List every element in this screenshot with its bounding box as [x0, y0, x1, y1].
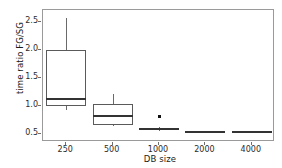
y-tick-label: 2.5 — [14, 17, 38, 25]
y-tick-label: 1.0 — [14, 101, 38, 109]
x-tick-label: 500 — [92, 145, 132, 154]
plot-area — [43, 10, 273, 140]
x-tick-mark — [204, 142, 205, 145]
y-tick-label: 0.5 — [14, 129, 38, 137]
y-tick-mark — [38, 77, 41, 78]
box-plot-group — [43, 10, 273, 140]
x-tick-mark — [251, 142, 252, 145]
x-axis-title: DB size — [45, 154, 275, 164]
x-tick-label: 1000 — [138, 145, 178, 154]
y-tick-mark — [38, 105, 41, 106]
x-tick-mark — [65, 142, 66, 145]
y-axis-tick-labels: 0.51.01.52.02.5 — [12, 0, 38, 168]
y-tick-label: 2.0 — [14, 45, 38, 53]
x-tick-label: 4000 — [231, 145, 271, 154]
y-tick-mark — [38, 21, 41, 22]
x-tick-label: 2000 — [184, 145, 224, 154]
x-tick-mark — [112, 142, 113, 145]
y-tick-label: 1.5 — [14, 73, 38, 81]
median-line — [232, 131, 272, 133]
boxplot-figure: time ratio FG/SG 0.51.01.52.02.5 2505001… — [0, 0, 282, 168]
y-tick-mark — [38, 49, 41, 50]
plot-panel — [42, 9, 274, 141]
x-tick-mark — [158, 142, 159, 145]
x-tick-label: 250 — [45, 145, 85, 154]
y-tick-mark — [38, 133, 41, 134]
